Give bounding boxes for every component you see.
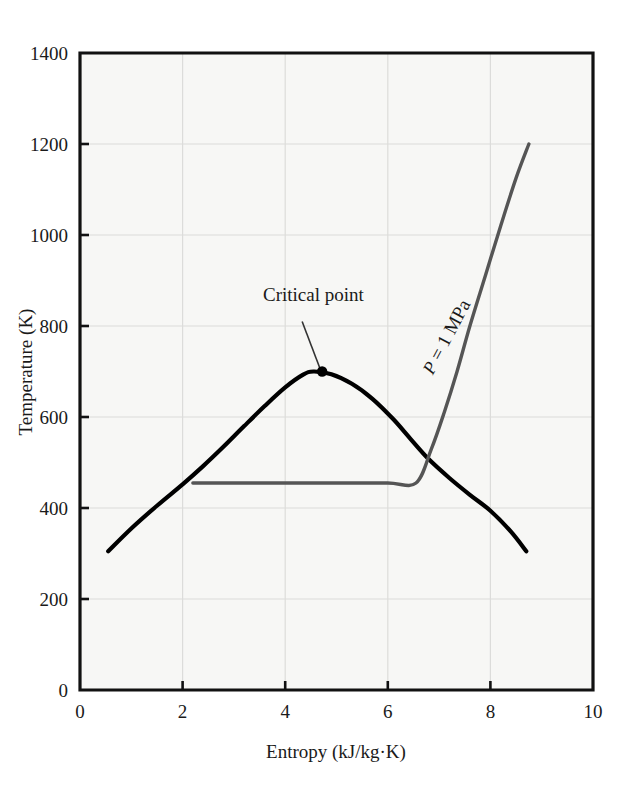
- x-tick-label: 6: [383, 701, 393, 722]
- y-tick-label: 400: [40, 498, 69, 519]
- plot-area-background: [80, 53, 593, 690]
- y-tick-label: 0: [59, 680, 69, 701]
- x-axis-title: Entropy (kJ/kg·K): [266, 741, 406, 763]
- y-tick-label: 800: [40, 316, 69, 337]
- y-tick-label: 600: [40, 407, 69, 428]
- critical-point-label: Critical point: [263, 284, 365, 305]
- x-tick-label: 10: [584, 701, 603, 722]
- y-tick-label: 1400: [30, 43, 68, 64]
- y-tick-label: 200: [40, 589, 69, 610]
- temperature-entropy-chart: 0246810 0200400600800100012001400 Critic…: [0, 0, 633, 790]
- x-tick-label: 4: [280, 701, 290, 722]
- x-tick-label: 2: [178, 701, 188, 722]
- ts-diagram-figure: 0246810 0200400600800100012001400 Critic…: [0, 0, 633, 790]
- y-tick-label: 1200: [30, 134, 68, 155]
- x-tick-label: 0: [75, 701, 85, 722]
- y-axis-title: Temperature (K): [15, 309, 37, 436]
- critical-point-marker: [317, 366, 327, 376]
- y-tick-label: 1000: [30, 225, 68, 246]
- x-tick-label: 8: [486, 701, 496, 722]
